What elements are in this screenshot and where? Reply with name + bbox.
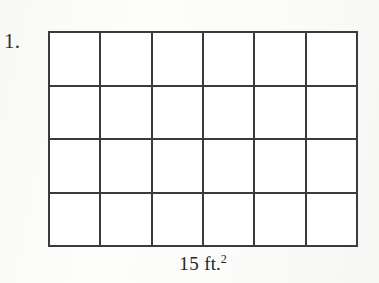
grid-cell [153, 140, 204, 194]
grid-cell [204, 87, 255, 141]
grid-cell [204, 140, 255, 194]
grid-cell [307, 87, 358, 141]
grid-cell [101, 140, 152, 194]
grid-cell [307, 140, 358, 194]
grid-cell [50, 140, 101, 194]
grid-cell [101, 194, 152, 248]
grid-cell [255, 140, 306, 194]
grid-cell [255, 87, 306, 141]
grid-cell [255, 33, 306, 87]
caption-unit: ft. [204, 253, 220, 274]
worksheet-problem-1: 1. 15ft.2 [0, 0, 379, 283]
caption-value: 15 [179, 253, 199, 274]
area-grid-figure [48, 31, 358, 247]
grid-cell [50, 87, 101, 141]
grid-cell [101, 33, 152, 87]
grid-cell [50, 194, 101, 248]
grid-cell [153, 33, 204, 87]
caption-exponent: 2 [221, 252, 227, 266]
grid-cell [255, 194, 306, 248]
grid-cell [307, 194, 358, 248]
area-grid [48, 31, 358, 247]
grid-cell [204, 33, 255, 87]
grid-cell [204, 194, 255, 248]
problem-number: 1. [4, 30, 20, 52]
grid-cell [153, 194, 204, 248]
grid-cell [50, 33, 101, 87]
grid-cell [101, 87, 152, 141]
figure-caption: 15ft.2 [48, 252, 358, 276]
grid-cell [153, 87, 204, 141]
grid-cell [307, 33, 358, 87]
